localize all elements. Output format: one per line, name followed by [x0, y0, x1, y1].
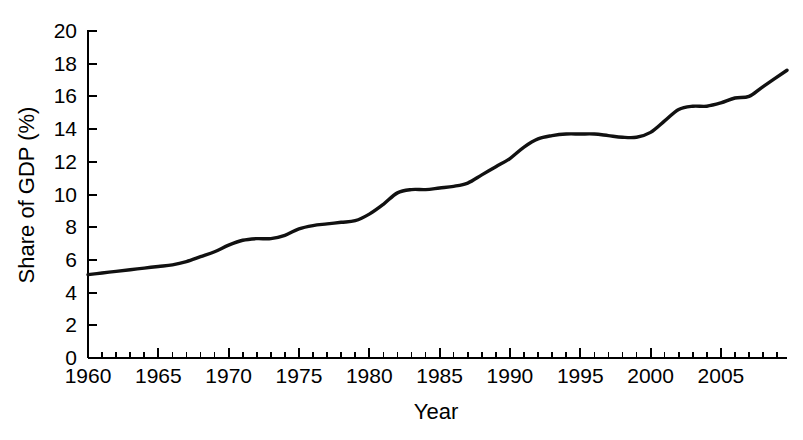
line-chart: Share of GDP (%) Year 02468101214161820 …: [0, 0, 803, 440]
x-tick-label: 1960: [65, 364, 112, 387]
y-tick-label: 4: [65, 281, 77, 304]
y-tick-label: 16: [54, 84, 77, 107]
y-axis-title: Share of GDP (%): [14, 107, 39, 284]
x-tick-label: 1985: [416, 364, 463, 387]
y-tick-label: 12: [54, 150, 77, 173]
y-tick-label: 2: [65, 313, 77, 336]
x-tick-label: 2005: [698, 364, 745, 387]
x-axis-ticks: 1960196519701975198019851990199520002005: [65, 348, 745, 387]
x-axis-title: Year: [414, 399, 458, 424]
x-tick-label: 1990: [487, 364, 534, 387]
data-series-line: [88, 70, 787, 274]
y-tick-label: 8: [65, 215, 77, 238]
axis-spines: [88, 30, 787, 358]
x-tick-label: 1980: [346, 364, 393, 387]
y-tick-label: 10: [54, 183, 77, 206]
y-tick-label: 18: [54, 52, 77, 75]
x-tick-label: 1970: [205, 364, 252, 387]
y-tick-label: 6: [65, 248, 77, 271]
x-tick-label: 1995: [557, 364, 604, 387]
y-tick-label: 20: [54, 19, 77, 42]
x-tick-label: 1975: [276, 364, 323, 387]
chart-container: Share of GDP (%) Year 02468101214161820 …: [0, 0, 803, 440]
x-tick-label: 2000: [627, 364, 674, 387]
x-tick-label: 1965: [135, 364, 182, 387]
y-tick-label: 14: [54, 117, 78, 140]
y-axis-ticks: 02468101214161820: [54, 19, 97, 369]
